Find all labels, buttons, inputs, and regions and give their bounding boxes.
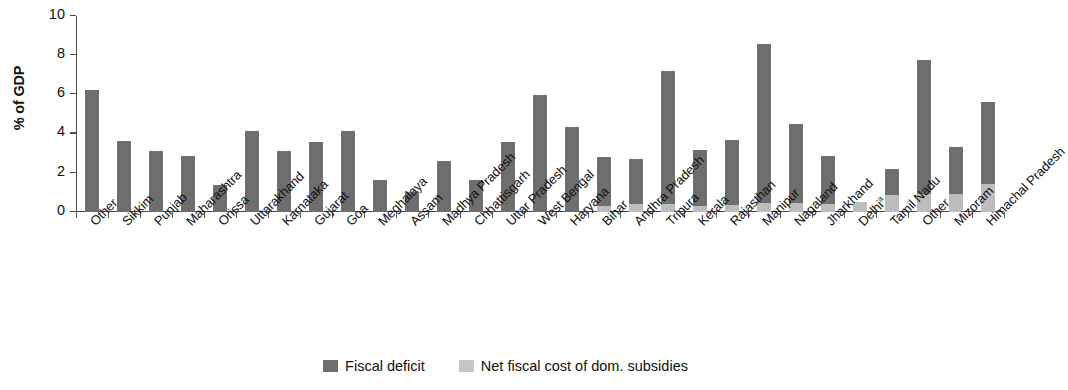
legend-swatch-icon <box>323 360 338 372</box>
legend-item-fiscal-deficit[interactable]: Fiscal deficit <box>323 358 425 374</box>
y-tick-10: 10 <box>70 15 76 16</box>
y-tick-4: 4 <box>70 132 76 133</box>
y-tick-2: 2 <box>70 172 76 173</box>
bar-segment-deficit <box>85 90 99 212</box>
bar-segment-deficit <box>981 102 995 183</box>
bar-segment-deficit <box>885 169 899 195</box>
y-tick-label: 6 <box>57 84 65 100</box>
x-axis-labels: OtherSikkimPunjabMaharashtraOrissaUttara… <box>76 218 1004 338</box>
bar-segment-deficit <box>117 141 131 212</box>
legend-label: Net fiscal cost of dom. subsidies <box>481 358 688 374</box>
legend-item-subsidies[interactable]: Net fiscal cost of dom. subsidies <box>459 358 688 374</box>
bar-group[interactable] <box>629 159 643 212</box>
y-tick-6: 6 <box>70 93 76 94</box>
y-axis-title: % of GDP <box>11 43 27 153</box>
y-tick-label: 8 <box>57 45 65 61</box>
bar-group[interactable] <box>85 90 99 212</box>
bar-segment-deficit <box>629 159 643 204</box>
bar-group[interactable] <box>117 141 131 212</box>
y-tick-label: 4 <box>57 123 65 139</box>
y-tick-label: 2 <box>57 163 65 179</box>
y-tick-8: 8 <box>70 54 76 55</box>
legend-label: Fiscal deficit <box>345 358 425 374</box>
bar-segment-deficit <box>725 140 739 205</box>
bar-group[interactable] <box>949 147 963 212</box>
y-tick-label: 10 <box>49 6 65 22</box>
chart-legend: Fiscal deficitNet fiscal cost of dom. su… <box>0 358 1011 374</box>
bar-segment-deficit <box>949 147 963 194</box>
y-tick-label: 0 <box>57 202 65 218</box>
legend-swatch-icon <box>459 360 474 372</box>
